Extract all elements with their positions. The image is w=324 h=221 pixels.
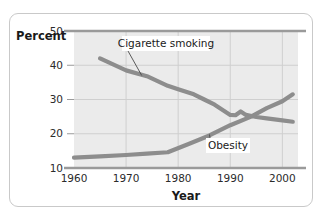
- x-tick-label: 1960: [61, 172, 88, 184]
- annotation-label: Cigarette smoking: [118, 37, 214, 49]
- annotation-label: Obesity: [208, 139, 248, 151]
- y-tick-label: 40: [50, 59, 63, 71]
- y-axis-ticks: 1020304050: [50, 25, 74, 174]
- x-axis-title: Year: [171, 189, 201, 203]
- x-tick-label: 2000: [269, 172, 296, 184]
- chart-card: 1020304050 19601970198019902000 Cigarett…: [9, 13, 313, 207]
- x-tick-label: 1980: [165, 172, 192, 184]
- y-tick-label: 20: [50, 127, 63, 139]
- y-tick-label: 30: [50, 93, 63, 105]
- y-axis-title: Percent: [16, 29, 67, 43]
- annotation-leader-line: [209, 134, 210, 138]
- line-chart: 1020304050 19601970198019902000 Cigarett…: [10, 14, 312, 206]
- x-axis-ticks: 19601970198019902000: [61, 172, 296, 184]
- x-tick-label: 1970: [113, 172, 140, 184]
- x-tick-label: 1990: [217, 172, 244, 184]
